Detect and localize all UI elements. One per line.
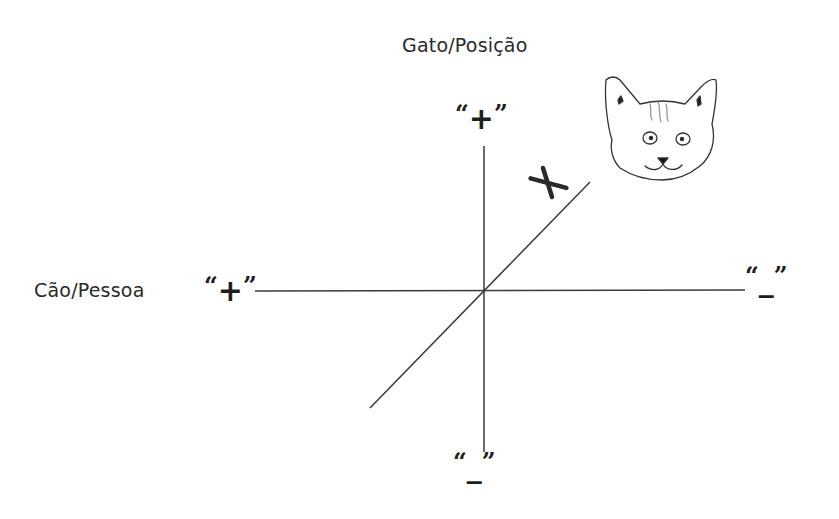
close-quote: ” (482, 447, 496, 476)
open-quote: “ (455, 99, 469, 128)
plus-symbol: + (218, 273, 243, 308)
cat-face-icon (605, 77, 716, 180)
horizontal-axis-title: Cão/Pessoa (34, 279, 144, 301)
horizontal-axis-line (255, 290, 745, 291)
minus-symbol: _ (467, 449, 482, 484)
open-quote: “ (745, 261, 759, 290)
top-positive-sign: “+” (455, 104, 508, 134)
close-quote: ” (494, 99, 508, 128)
vertical-axis-title: Gato/Posição (402, 34, 528, 56)
diagonal-axis-line (370, 182, 590, 408)
axes-diagram (0, 0, 839, 519)
left-positive-sign: “+” (204, 276, 257, 306)
minus-symbol: _ (759, 263, 774, 298)
open-quote: “ (204, 271, 218, 300)
bottom-negative-sign: “_” (453, 452, 496, 482)
close-quote: ” (243, 271, 257, 300)
right-negative-sign: “_” (745, 266, 788, 296)
x-marker-icon (531, 168, 567, 197)
open-quote: “ (453, 447, 467, 476)
plus-symbol: + (469, 101, 494, 136)
close-quote: ” (774, 261, 788, 290)
